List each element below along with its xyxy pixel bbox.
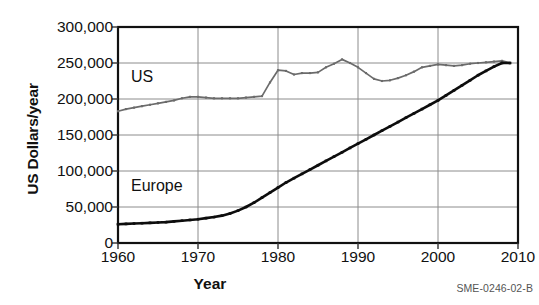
- series-marker-us: [285, 70, 287, 72]
- series-marker-us: [381, 80, 383, 82]
- series-marker-europe: [285, 181, 288, 184]
- y-tick-label: 200,000: [3, 90, 113, 108]
- series-marker-europe: [237, 209, 240, 212]
- series-marker-europe: [381, 129, 384, 132]
- series-line-us: [118, 59, 510, 111]
- series-marker-us: [453, 65, 455, 67]
- series-marker-us: [421, 66, 423, 68]
- series-marker-europe: [269, 191, 272, 194]
- y-tick-label: 300,000: [3, 18, 113, 36]
- series-marker-europe: [357, 142, 360, 145]
- series-marker-us: [325, 66, 327, 68]
- series-marker-europe: [429, 103, 432, 106]
- series-marker-europe: [261, 196, 264, 199]
- series-marker-us: [213, 97, 215, 99]
- series-marker-us: [341, 58, 343, 60]
- series-marker-us: [397, 77, 399, 79]
- series-marker-europe: [245, 206, 248, 209]
- series-marker-europe: [149, 222, 152, 225]
- series-marker-us: [357, 66, 359, 68]
- series-marker-us: [133, 107, 135, 109]
- x-tick-label: 1980: [238, 248, 318, 266]
- x-tick-label: 1990: [318, 248, 398, 266]
- x-tick-label: 2010: [478, 248, 539, 266]
- series-marker-us: [277, 69, 279, 71]
- series-marker-europe: [181, 219, 184, 222]
- series-marker-europe: [133, 222, 136, 225]
- series-marker-europe: [493, 65, 496, 68]
- series-marker-europe: [405, 116, 408, 119]
- series-marker-us: [365, 72, 367, 74]
- x-axis-label: Year: [0, 275, 420, 293]
- chart-figure: US Dollars/year 050,000100,000150,000200…: [0, 0, 539, 305]
- series-marker-europe: [477, 74, 480, 77]
- series-marker-europe: [277, 186, 280, 189]
- series-marker-us: [189, 96, 191, 98]
- series-marker-europe: [165, 221, 168, 224]
- series-marker-us: [173, 99, 175, 101]
- series-marker-us: [501, 60, 503, 62]
- series-marker-europe: [141, 222, 144, 225]
- series-marker-us: [405, 74, 407, 76]
- figure-caption: SME-0246-02-B: [456, 282, 533, 294]
- series-marker-us: [237, 97, 239, 99]
- series-marker-europe: [173, 220, 176, 223]
- series-marker-us: [317, 71, 319, 73]
- series-marker-us: [245, 97, 247, 99]
- series-marker-europe: [509, 62, 512, 65]
- series-marker-us: [477, 62, 479, 64]
- series-marker-europe: [325, 160, 328, 163]
- series-marker-europe: [453, 89, 456, 92]
- series-marker-europe: [341, 151, 344, 154]
- x-tick-label: 2000: [398, 248, 478, 266]
- series-marker-europe: [117, 223, 120, 226]
- series-line-europe: [118, 63, 510, 224]
- series-marker-europe: [365, 138, 368, 141]
- series-marker-europe: [333, 155, 336, 158]
- x-tick-label: 1970: [158, 248, 238, 266]
- series-marker-us: [349, 62, 351, 64]
- series-marker-us: [149, 104, 151, 106]
- series-marker-europe: [309, 168, 312, 171]
- series-marker-europe: [445, 94, 448, 97]
- series-marker-europe: [317, 164, 320, 167]
- series-label-europe: Europe: [131, 177, 183, 195]
- series-marker-us: [293, 73, 295, 75]
- series-marker-europe: [389, 125, 392, 128]
- series-marker-us: [437, 63, 439, 65]
- series-marker-europe: [221, 214, 224, 217]
- series-marker-us: [269, 81, 271, 83]
- series-marker-europe: [125, 223, 128, 226]
- series-marker-us: [461, 64, 463, 66]
- y-tick-label: 150,000: [3, 126, 113, 144]
- series-marker-europe: [501, 62, 504, 65]
- series-marker-us: [125, 108, 127, 110]
- series-marker-europe: [373, 134, 376, 137]
- series-marker-us: [205, 97, 207, 99]
- series-marker-us: [309, 72, 311, 74]
- series-marker-us: [373, 78, 375, 80]
- series-marker-europe: [301, 173, 304, 176]
- series-marker-us: [157, 102, 159, 104]
- series-marker-europe: [253, 201, 256, 204]
- series-marker-europe: [197, 218, 200, 221]
- series-marker-us: [485, 61, 487, 63]
- series-marker-us: [333, 63, 335, 65]
- series-marker-europe: [205, 217, 208, 220]
- series-marker-us: [181, 97, 183, 99]
- y-tick-label: 100,000: [3, 162, 113, 180]
- series-marker-europe: [421, 108, 424, 111]
- y-tick-label: 50,000: [3, 198, 113, 216]
- y-tick-label: 250,000: [3, 54, 113, 72]
- series-marker-europe: [213, 216, 216, 219]
- series-marker-us: [389, 79, 391, 81]
- series-marker-europe: [293, 177, 296, 180]
- series-label-us: US: [131, 68, 153, 86]
- series-marker-us: [165, 101, 167, 103]
- series-marker-us: [493, 61, 495, 63]
- series-marker-us: [445, 64, 447, 66]
- series-marker-europe: [397, 121, 400, 124]
- series-marker-us: [301, 72, 303, 74]
- series-marker-europe: [461, 84, 464, 87]
- x-tick-label: 1960: [78, 248, 158, 266]
